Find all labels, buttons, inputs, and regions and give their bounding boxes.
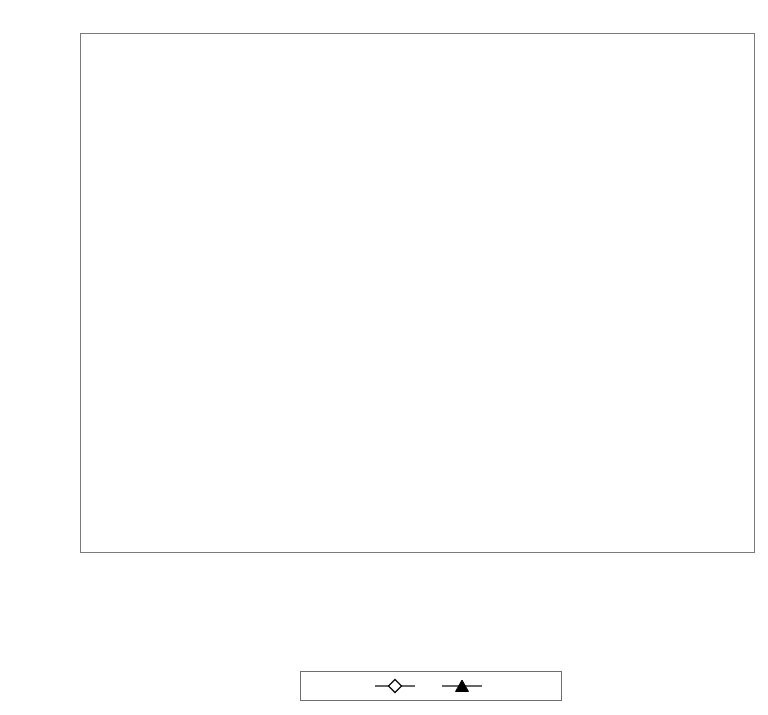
filled-triangle-icon — [441, 678, 483, 694]
open-diamond-icon — [374, 678, 416, 694]
legend-item-usa — [441, 678, 488, 694]
chart-root — [0, 0, 768, 715]
chart-legend — [300, 671, 562, 701]
legend-item-canada — [374, 678, 421, 694]
chart-canvas — [81, 34, 754, 552]
plot-area — [80, 33, 755, 553]
